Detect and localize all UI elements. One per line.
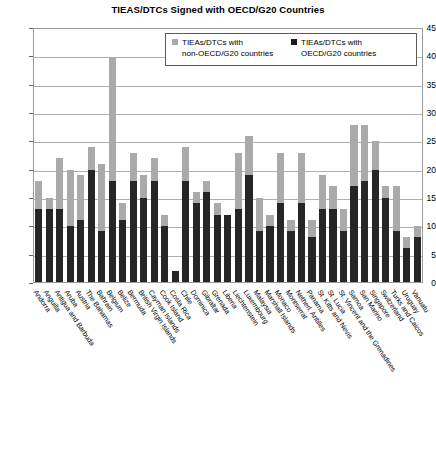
legend-label-oecd: TIEAs/DTCs with OECD/G20 countries [301, 37, 376, 59]
x-axis-label-slot: St. Kitts and Nevis [319, 286, 326, 454]
x-axis-label-slot: Marshall Islands [266, 286, 273, 454]
x-axis-label-slot: Liechtenstein [235, 286, 242, 454]
bar-segment-oecd [109, 181, 116, 282]
bar-column [224, 29, 231, 282]
y-axis-tick-mark [29, 198, 33, 199]
bar-segment-non-oecd [308, 220, 315, 237]
x-axis-label-slot: Panama [308, 286, 315, 454]
bar-segment-non-oecd [46, 198, 53, 209]
bar-column [119, 29, 126, 282]
x-axis-label-slot: Luxembourg [245, 286, 252, 454]
bar-segment-oecd [372, 170, 379, 282]
bar-segment-non-oecd [329, 186, 336, 208]
x-axis-label-slot: Malaysia [256, 286, 263, 454]
bar-segment-oecd [350, 186, 357, 282]
bar-segment-oecd [414, 237, 421, 282]
legend-entry-non-oecd: TIEAs/DTCs with non-OECD/G20 countries [172, 37, 291, 62]
bar-column [277, 29, 284, 282]
chart-title: TIEAS/DTCs Signed with OECD/G20 Countrie… [0, 4, 436, 15]
bar-column [266, 29, 273, 282]
x-axis-label-slot: San Marino [361, 286, 368, 454]
bar-segment-oecd [308, 237, 315, 282]
bar-segment-non-oecd [235, 153, 242, 209]
y-axis-tick-mark [29, 28, 33, 29]
bar-segment-non-oecd [214, 203, 221, 214]
bar-column [172, 29, 179, 282]
bar-segment-oecd [98, 231, 105, 282]
bar-segment-oecd [203, 192, 210, 282]
bar-segment-oecd [382, 198, 389, 282]
black-square-icon [291, 39, 297, 45]
bar-column [287, 29, 294, 282]
bar-column [235, 29, 242, 282]
bar-segment-oecd [224, 215, 231, 282]
bar-column [340, 29, 347, 282]
bar-column [140, 29, 147, 282]
x-axis-label-slot: Andorra [35, 286, 42, 454]
bar-column [151, 29, 158, 282]
bar-segment-non-oecd [319, 175, 326, 209]
bar-segment-oecd [35, 209, 42, 282]
x-axis-label-slot: Grenada [214, 286, 221, 454]
x-axis-label-slot: Uruguay [403, 286, 410, 454]
x-axis-label-slot: St. Lucia [329, 286, 336, 454]
gray-square-icon [172, 39, 178, 45]
x-axis-label-slot: Bahrain [98, 286, 105, 454]
bar-column [403, 29, 410, 282]
bar-column [46, 29, 53, 282]
bar-column [88, 29, 95, 282]
bar-segment-non-oecd [130, 153, 137, 181]
bar-segment-oecd [119, 220, 126, 282]
bar-column [109, 29, 116, 282]
chart-container: TIEAS/DTCs Signed with OECD/G20 Countrie… [0, 0, 436, 457]
x-axis-label-slot: Liberia [224, 286, 231, 454]
bar-column [319, 29, 326, 282]
bar-segment-non-oecd [109, 57, 116, 181]
y-axis-tick-mark [29, 141, 33, 142]
bar-segment-non-oecd [256, 198, 263, 232]
bar-segment-oecd [140, 198, 147, 282]
bar-series-layer [34, 29, 422, 282]
bar-segment-non-oecd [151, 158, 158, 180]
y-axis-tick-mark [29, 283, 33, 284]
x-axis-label-slot: Cayman Islands [151, 286, 158, 454]
y-axis-tick-mark [29, 226, 33, 227]
bar-segment-non-oecd [372, 141, 379, 169]
bar-column [98, 29, 105, 282]
bar-segment-non-oecd [98, 164, 105, 231]
bar-segment-oecd [319, 209, 326, 282]
bar-segment-oecd [130, 181, 137, 282]
bar-column [130, 29, 137, 282]
bar-segment-non-oecd [88, 147, 95, 169]
x-axis-label-slot: Monaco [277, 286, 284, 454]
y-axis-tick-mark [29, 85, 33, 86]
bar-column [329, 29, 336, 282]
x-axis-tick-label: Vanuatu [410, 288, 432, 314]
bar-column [161, 29, 168, 282]
x-axis-label-slot: Dominica [193, 286, 200, 454]
legend-entry-oecd: TIEAs/DTCs with OECD/G20 countries [291, 37, 410, 62]
bar-segment-oecd [88, 170, 95, 282]
bar-segment-non-oecd [361, 125, 368, 181]
x-axis-labels: AndorraAnguillaAntigua and BarbudaArubaA… [34, 286, 422, 454]
bar-segment-oecd [266, 226, 273, 282]
x-axis-label-slot: Belgium [109, 286, 116, 454]
bar-column [256, 29, 263, 282]
x-axis-label-slot: British Virgin Islands [140, 286, 147, 454]
bar-segment-non-oecd [277, 153, 284, 204]
bar-column [393, 29, 400, 282]
bar-segment-oecd [361, 181, 368, 282]
bar-segment-oecd [256, 231, 263, 282]
x-axis-label-slot: The Bahamas [88, 286, 95, 454]
bar-column [382, 29, 389, 282]
bar-column [193, 29, 200, 282]
x-axis-label-slot: Netherl. Antilles [298, 286, 305, 454]
bar-segment-non-oecd [340, 209, 347, 231]
bar-segment-non-oecd [140, 175, 147, 197]
bar-column [350, 29, 357, 282]
bar-segment-oecd [151, 181, 158, 282]
bar-segment-oecd [214, 215, 221, 282]
y-axis-tick-mark [29, 56, 33, 57]
x-axis-label-slot: Vanuatu [414, 286, 421, 454]
x-axis-label-slot: Antigua and Barbuda [56, 286, 63, 454]
